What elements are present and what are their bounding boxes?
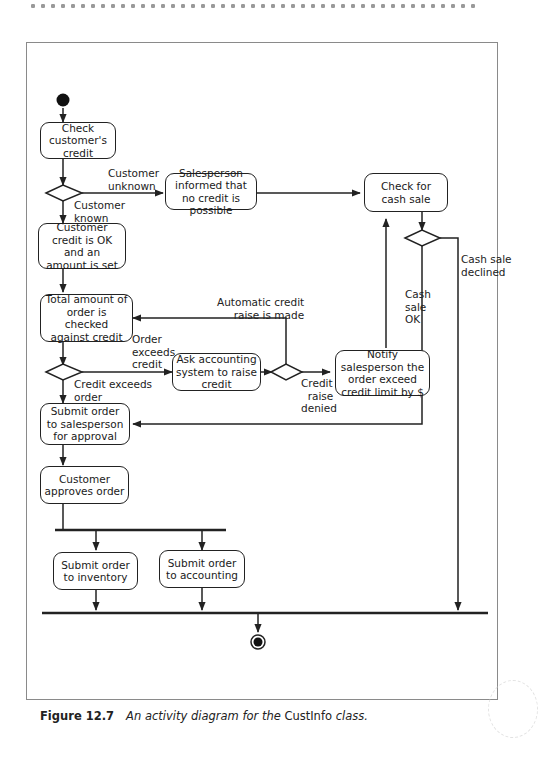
action-ask-accounting: Ask accounting system to raise credit (172, 353, 261, 391)
decision-credit-raise (271, 364, 302, 380)
action-credit-ok: Customer credit is OK and an amount is s… (38, 223, 126, 269)
action-check-cash-sale: Check for cash sale (364, 173, 448, 212)
guard-cash-sale-declined: Cash sale declined (461, 253, 512, 278)
initial-node (57, 94, 70, 107)
action-check-customer-credit: Check customer's credit (40, 122, 116, 159)
caption-class-name: CustInfo (284, 709, 332, 723)
caption-text-a: An activity diagram for the (126, 709, 284, 723)
guard-credit-raise-denied: Credit raise denied (301, 377, 337, 415)
guard-cash-sale-ok: Cash sale OK (405, 288, 431, 326)
guard-automatic-raise: Automatic credit raise is made (217, 296, 304, 321)
watermark-stamp (488, 680, 538, 738)
action-submit-to-salesperson: Submit order to salesperson for approval (40, 403, 130, 445)
caption-text-b: class. (332, 709, 368, 723)
action-notify-salesperson: Notify salesperson the order exceed cred… (335, 350, 430, 396)
action-customer-approves: Customer approves order (40, 466, 129, 504)
action-submit-to-accounting: Submit order to accounting (159, 550, 245, 588)
action-salesperson-informed: Salesperson informed that no credit is p… (165, 173, 257, 210)
figure-number: Figure 12.7 (40, 709, 114, 723)
guard-credit-exceeds-order: Credit exceeds order (74, 378, 152, 403)
figure-caption: Figure 12.7An activity diagram for the C… (40, 709, 368, 723)
guard-customer-unknown: Customer unknown (108, 167, 159, 192)
guard-order-exceeds-credit: Order exceeds credit (132, 333, 175, 371)
decision-cash-sale (405, 230, 440, 246)
action-submit-to-inventory: Submit order to inventory (53, 552, 138, 590)
guard-customer-known: Customer known (74, 199, 125, 224)
action-total-checked: Total amount of order is checked against… (40, 294, 133, 342)
